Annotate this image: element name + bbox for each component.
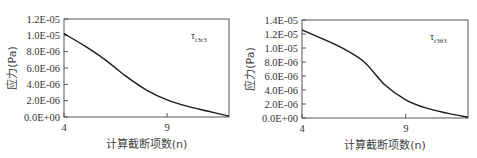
y-tick-label: 1.2E-05 bbox=[26, 14, 60, 25]
y-tick-label: 0.0E+00 bbox=[24, 112, 60, 123]
chart-right: 0.0E+002.0E-064.0E-066.0E-068.0E-061.0E-… bbox=[238, 0, 476, 158]
chart-right-plot: 0.0E+002.0E-064.0E-066.0E-068.0E-061.0E-… bbox=[238, 0, 477, 158]
series-line bbox=[64, 34, 229, 116]
y-tick-label: 8.0E-06 bbox=[26, 46, 60, 57]
x-tick-label: 9 bbox=[165, 122, 170, 133]
x-tick-label: 4 bbox=[299, 123, 305, 134]
y-tick-label: 2.0E-06 bbox=[264, 99, 298, 110]
chart-left: 0.0E+002.0E-064.0E-066.0E-068.0E-061.0E-… bbox=[0, 0, 238, 158]
x-axis-title: 计算截断项数(n) bbox=[106, 137, 188, 151]
y-tick-label: 1.4E-05 bbox=[264, 15, 298, 26]
y-tick-label: 1.0E-05 bbox=[26, 30, 60, 41]
y-tick-label: 4.0E-06 bbox=[264, 85, 298, 96]
x-tick-label: 9 bbox=[403, 123, 408, 134]
y-tick-label: 0.0E+00 bbox=[262, 113, 298, 124]
y-tick-label: 6.0E-06 bbox=[264, 71, 298, 82]
x-tick-label: 4 bbox=[61, 122, 67, 133]
y-axis-title: 应力(Pa) bbox=[243, 47, 257, 90]
y-tick-label: 1.0E-05 bbox=[264, 43, 298, 54]
y-tick-label: 4.0E-06 bbox=[26, 79, 60, 90]
legend-label: τr3r3 bbox=[191, 30, 207, 44]
chart-left-plot: 0.0E+002.0E-064.0E-066.0E-068.0E-061.0E-… bbox=[0, 0, 238, 158]
y-tick-label: 2.0E-06 bbox=[26, 95, 60, 106]
legend-label: τr3θ3 bbox=[430, 31, 447, 45]
y-axis-title: 应力(Pa) bbox=[5, 46, 19, 89]
plot-frame bbox=[302, 20, 468, 118]
y-tick-label: 8.0E-06 bbox=[264, 57, 298, 68]
plot-frame bbox=[64, 19, 229, 117]
y-tick-label: 1.2E-05 bbox=[264, 29, 298, 40]
y-tick-label: 6.0E-06 bbox=[26, 63, 60, 74]
x-axis-title: 计算截断项数(n) bbox=[344, 138, 426, 152]
